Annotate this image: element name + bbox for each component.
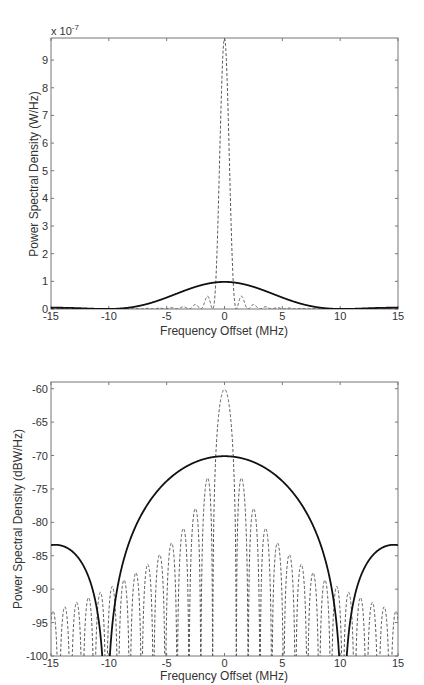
y-tick-label: 5	[42, 165, 48, 177]
x-tick-label: 10	[334, 310, 346, 322]
y-axis-label: Power Spectral Density (W/Hz)	[27, 91, 41, 256]
y-tick-label: 8	[42, 82, 48, 94]
linear-psd-chart: -15-10-5051015 0123456789 Frequency Offs…	[27, 23, 404, 338]
y-tick-label: 2	[42, 248, 48, 260]
x-tick-label: 0	[221, 310, 227, 322]
x-tick-label: 15	[392, 310, 404, 322]
y-tick-label: -80	[32, 516, 48, 528]
x-tick-label: -10	[101, 657, 117, 669]
y-axis-label: Power Spectral Density (dBW/Hz)	[11, 429, 25, 609]
y-multiplier: x 10-7	[51, 23, 79, 37]
y-tick-label: 9	[42, 54, 48, 66]
x-tick-label: 0	[221, 657, 227, 669]
db-psd-chart: -15-10-5051015 -100-95-90-85-80-75-70-65…	[11, 382, 404, 683]
y-tick-label: -60	[32, 383, 48, 395]
y-tick-label: -75	[32, 483, 48, 495]
y-tick-label: -90	[32, 583, 48, 595]
x-tick-label: -5	[162, 310, 172, 322]
y-tick-label: -100	[26, 650, 48, 662]
x-tick-label: -10	[101, 310, 117, 322]
x-tick-label: 15	[392, 657, 404, 669]
x-tick-label: 10	[334, 657, 346, 669]
y-tick-label: 7	[42, 109, 48, 121]
x-tick-label: 5	[279, 657, 285, 669]
x-tick-label: -5	[162, 657, 172, 669]
y-tick-label: 3	[42, 220, 48, 232]
x-tick-label: 5	[279, 310, 285, 322]
x-axis-label: Frequency Offset (MHz)	[160, 669, 288, 683]
plot-area	[51, 38, 398, 309]
y-tick-label: -85	[32, 550, 48, 562]
y-tick-label: 0	[42, 303, 48, 315]
y-tick-label: -70	[32, 450, 48, 462]
y-tick-label: 6	[42, 137, 48, 149]
y-tick-label: 1	[42, 275, 48, 287]
y-tick-label: 4	[42, 192, 48, 204]
y-tick-label: -95	[32, 617, 48, 629]
y-tick-label: -65	[32, 416, 48, 428]
figure: -15-10-5051015 0123456789 Frequency Offs…	[0, 0, 424, 685]
x-axis-label: Frequency Offset (MHz)	[160, 324, 288, 338]
